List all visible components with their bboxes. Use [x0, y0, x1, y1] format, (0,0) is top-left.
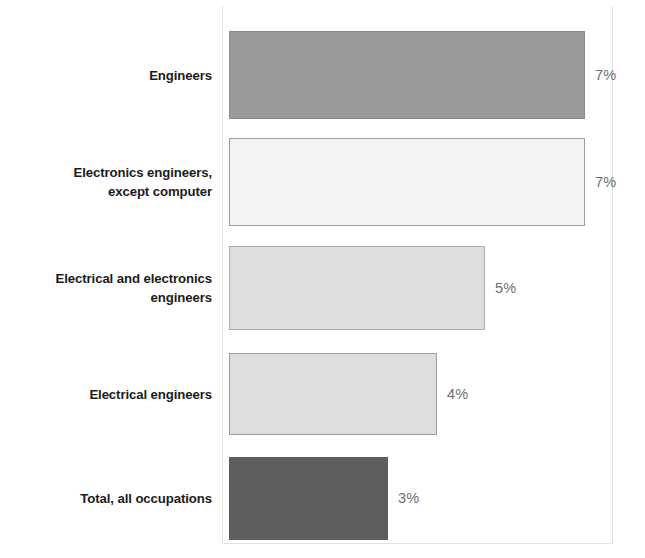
bar-category-label: Electrical engineers — [0, 385, 212, 404]
bar-category-label-line1: Electrical and electronics — [56, 271, 212, 286]
bar-category-label-line2: except computer — [0, 182, 212, 201]
bar-value-label: 4% — [447, 386, 468, 402]
bar-category-label-line1: Electrical engineers — [89, 387, 212, 402]
plot-frame-baseline — [222, 543, 613, 544]
bar-value-label: 7% — [595, 174, 616, 190]
bar-2[interactable] — [229, 138, 585, 226]
bar-category-label-line1: Total, all occupations — [80, 491, 212, 506]
bar-row: Electrical and electronicsengineers5% — [0, 246, 645, 330]
bar-value-label: 5% — [495, 280, 516, 296]
bar-category-label: Electronics engineers,except computer — [0, 163, 212, 201]
bar-row: Electronics engineers,except computer7% — [0, 138, 645, 226]
bar-4[interactable] — [229, 353, 437, 435]
bar-value-label: 3% — [398, 490, 419, 506]
bar-row: Electrical engineers4% — [0, 353, 645, 435]
bar-category-label: Electrical and electronicsengineers — [0, 269, 212, 307]
bar-1[interactable] — [229, 31, 585, 119]
bar-row: Engineers7% — [0, 31, 645, 119]
bar-chart: Engineers7%Electronics engineers,except … — [0, 0, 645, 558]
bar-category-label-line2: engineers — [0, 288, 212, 307]
bar-row: Total, all occupations3% — [0, 457, 645, 540]
bar-category-label-line1: Electronics engineers, — [73, 165, 212, 180]
bar-value-label: 7% — [595, 67, 616, 83]
chart-title — [0, 0, 645, 6]
bar-category-label: Engineers — [0, 66, 212, 85]
bar-5[interactable] — [229, 457, 388, 540]
bar-category-label: Total, all occupations — [0, 489, 212, 508]
bar-3[interactable] — [229, 246, 485, 330]
bar-category-label-line1: Engineers — [149, 68, 212, 83]
